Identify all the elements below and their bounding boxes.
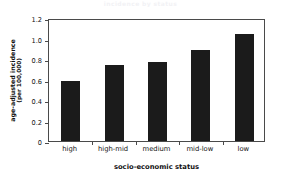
cropped-title-text: incidence by status <box>0 0 281 7</box>
x-axis-tick <box>92 141 93 145</box>
y-axis-tick <box>45 123 49 124</box>
y-axis-tick <box>45 41 49 42</box>
y-axis-tick <box>45 20 49 21</box>
x-axis-tick <box>223 141 224 145</box>
x-axis-tick-label: low <box>237 145 249 153</box>
x-axis-tick <box>136 141 137 145</box>
x-axis-tick-label: medium <box>143 145 171 153</box>
x-axis-tick-label: high <box>62 145 77 153</box>
y-axis-tick-label: 0.4 <box>32 98 43 106</box>
y-axis-tick-label: 0 <box>38 139 42 147</box>
bar-mid-low <box>191 50 210 141</box>
bar-high <box>61 81 80 141</box>
y-axis-tick-label: 1.0 <box>32 37 43 45</box>
bar-chart-figure: incidence by status age-adjusted inciden… <box>0 0 281 185</box>
x-axis-tick-label: mid-low <box>186 145 213 153</box>
y-axis-title-line2: (per 100,000) <box>16 39 23 122</box>
plot-inner: 00.20.40.60.81.01.2 <box>49 20 264 141</box>
plot-area: 00.20.40.60.81.01.2 <box>48 19 265 142</box>
y-axis-tick <box>45 102 49 103</box>
y-axis-tick-label: 0.2 <box>32 119 43 127</box>
bar-low <box>235 34 254 141</box>
bar-high-mid <box>105 65 124 141</box>
x-axis-tick-label: high-mid <box>98 145 128 153</box>
y-axis-title-line1: age-adjusted incidence <box>9 39 16 122</box>
y-axis-title: age-adjusted incidence (per 100,000) <box>6 19 26 142</box>
y-axis-tick-label: 0.8 <box>32 57 43 65</box>
y-axis-tick-label: 0.6 <box>32 78 43 86</box>
bar-medium <box>148 62 167 141</box>
y-axis-tick <box>45 143 49 144</box>
y-axis-tick <box>45 61 49 62</box>
y-axis-tick-label: 1.2 <box>32 16 43 24</box>
x-axis-tick <box>179 141 180 145</box>
x-axis-title: socio-economic status <box>48 163 265 171</box>
y-axis-tick <box>45 82 49 83</box>
